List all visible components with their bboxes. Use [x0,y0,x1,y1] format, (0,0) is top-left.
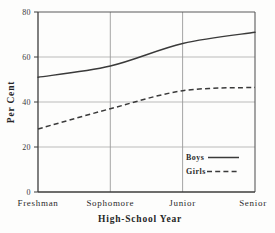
ytick-label-0: 0 [27,188,31,197]
legend-label-boys: Boys [186,153,204,162]
ytick-label-20: 20 [22,143,31,152]
chart-page: 80 60 40 20 0 Per Cent Freshman Sophomor… [0,0,275,233]
line-chart: 80 60 40 20 0 Per Cent Freshman Sophomor… [0,0,275,233]
ytick-label-60: 60 [22,53,31,62]
legend-label-girls: Girls [186,167,206,176]
x-axis-title: High-School Year [98,214,182,224]
xtick-label-junior: Junior [169,198,196,208]
xtick-label-senior: Senior [239,198,267,208]
y-axis-title: Per Cent [6,81,16,123]
xtick-label-freshman: Freshman [17,198,58,208]
xtick-label-sophomore: Sophomore [86,198,134,208]
ytick-label-80: 80 [22,8,31,17]
ytick-label-40: 40 [22,98,31,107]
